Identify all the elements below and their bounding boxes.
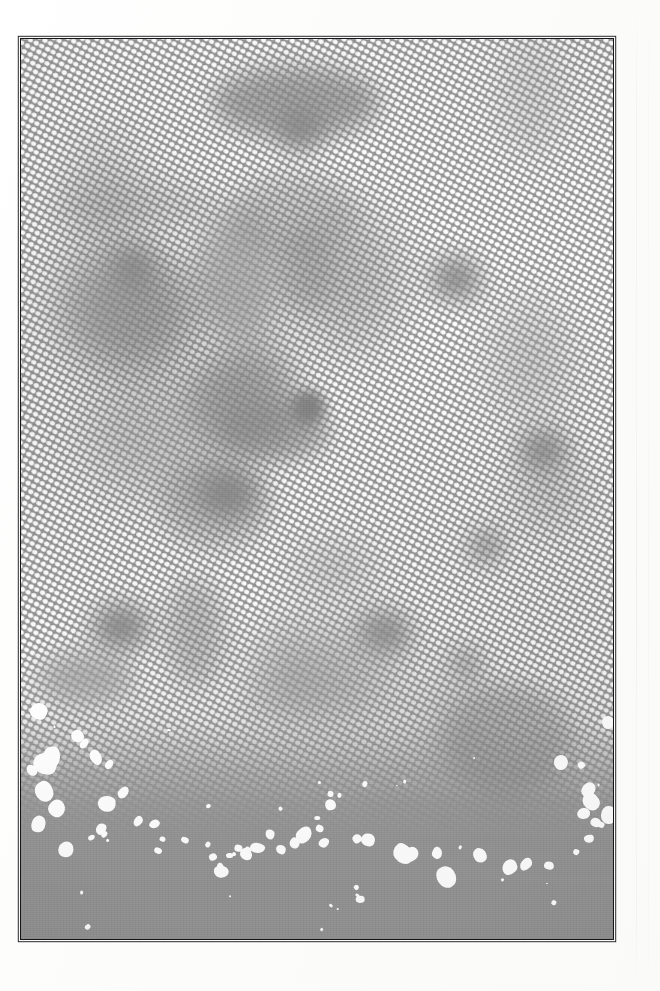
scanned-page: Halftone print scan Scanned halftone pla… (0, 0, 660, 991)
plate-inner (21, 39, 613, 939)
ink-mottle (21, 39, 613, 939)
plate-frame (20, 38, 614, 940)
